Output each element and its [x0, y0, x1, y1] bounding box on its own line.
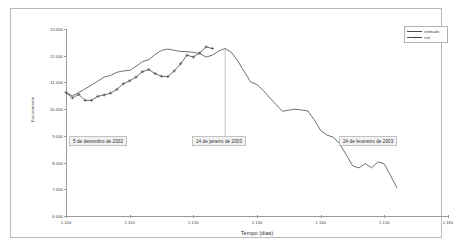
- y-tick-label: 12.000: [33, 53, 63, 58]
- annotation-middle: 14 de janeiro de 2003: [192, 136, 246, 146]
- plus-marker-icon: [103, 93, 106, 96]
- annotation-left: 5 de dezembro de 2002: [69, 136, 127, 146]
- x-axis-title: Tempo (dias): [241, 230, 273, 236]
- chart-legend: estimado + real: [404, 26, 448, 43]
- plot-area: [66, 29, 448, 216]
- plus-marker-icon: [211, 47, 214, 50]
- legend-label-real: real: [424, 36, 430, 40]
- series-line-real: [66, 47, 212, 100]
- y-tick-label: 13.000: [33, 27, 63, 32]
- x-tick-label: 1.100: [61, 220, 72, 225]
- legend-line-marker-swatch-icon: +: [407, 35, 422, 40]
- series-container: [66, 29, 448, 216]
- y-tick-label: 11.000: [33, 80, 63, 85]
- legend-label-estimado: estimado: [424, 30, 439, 34]
- series-markers-real: [64, 45, 214, 102]
- chart-figure: 6.0007.0008.0009.00010.00011.00012.00013…: [0, 0, 453, 248]
- y-tick-label: 6.000: [33, 214, 63, 219]
- y-axis-title: Escoamento: [30, 97, 35, 122]
- y-tick-label: 10.000: [33, 107, 63, 112]
- x-tick-label: 1.120: [188, 220, 199, 225]
- x-tick-label: 1.150: [379, 220, 390, 225]
- plus-marker-icon: [160, 75, 163, 78]
- legend-item-real: + real: [407, 35, 445, 41]
- x-tick-mark: [448, 215, 449, 218]
- figure-frame: 6.0007.0008.0009.00010.00011.00012.00013…: [10, 8, 442, 238]
- series-line-estimado: [66, 49, 397, 188]
- y-tick-label: 8.000: [33, 160, 63, 165]
- x-tick-label: 1.160: [443, 220, 453, 225]
- annotation-right: 24 de fevereiro de 2003: [339, 136, 397, 146]
- y-tick-label: 9.000: [33, 133, 63, 138]
- x-tick-label: 1.110: [124, 220, 134, 225]
- plus-marker-icon: +: [413, 35, 416, 40]
- x-tick-label: 1.140: [315, 220, 326, 225]
- x-tick-label: 1.130: [252, 220, 263, 225]
- y-tick-label: 7.000: [33, 187, 63, 192]
